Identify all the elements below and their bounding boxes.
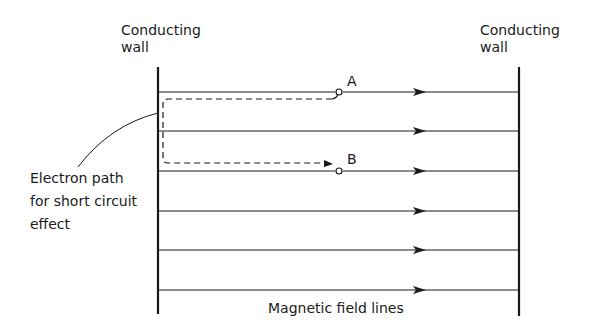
point-b-label: B (347, 151, 357, 167)
electron-path-arrow-icon (324, 160, 333, 167)
short-circuit-diagram: Conducting wall Conducting wall A B Elec… (0, 0, 595, 330)
point-a-label: A (347, 73, 357, 89)
point-a-marker (336, 89, 342, 95)
electron-path-pointer (78, 113, 158, 167)
field-lines-caption: Magnetic field lines (268, 300, 404, 316)
point-b-marker (336, 168, 342, 174)
field-direction-arrows (324, 88, 426, 294)
right-wall-label: Conducting (480, 22, 560, 38)
left-wall-label: Conducting (121, 22, 201, 38)
electron-path-label: Electron path (30, 170, 124, 186)
right-wall-label-2: wall (480, 39, 508, 55)
left-wall-label-2: wall (121, 39, 149, 55)
electron-path-label-3: effect (30, 216, 71, 232)
electron-path-label-2: for short circuit (30, 193, 138, 209)
magnetic-field-lines (159, 92, 519, 290)
